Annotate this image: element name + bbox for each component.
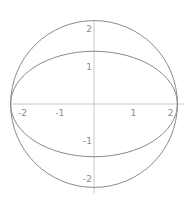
parametric-plot: -2-112 21-1-2 xyxy=(0,0,189,201)
y-tick-label: 1 xyxy=(86,62,92,72)
x-tick-label: -1 xyxy=(55,108,64,118)
x-tick-label: 1 xyxy=(130,108,136,118)
y-tick-label: -1 xyxy=(83,136,92,146)
y-tick-label: -2 xyxy=(83,174,92,184)
x-tick-label: -2 xyxy=(18,108,27,118)
x-tick-labels: -2-112 xyxy=(18,108,174,118)
y-tick-label: 2 xyxy=(86,24,92,34)
x-tick-label: 2 xyxy=(168,108,174,118)
